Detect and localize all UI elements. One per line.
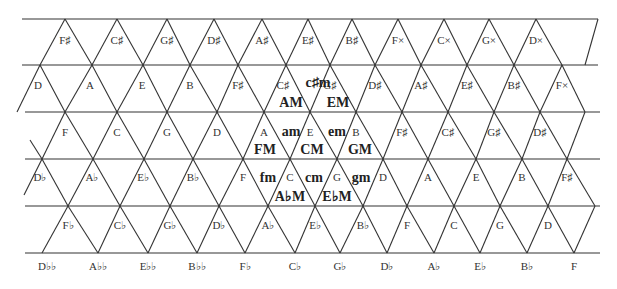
chord-label: GM (348, 142, 372, 157)
note-label: C♯ (442, 126, 455, 138)
note-label: F (404, 219, 410, 231)
note-label: G× (482, 34, 496, 46)
note-label: A (86, 79, 94, 91)
chord-label: CM (300, 142, 323, 157)
lattice-grid: F♯C♯G♯D♯A♯E♯B♯F×C×G×D×DAEBF♯C♯G♯D♯A♯E♯B♯… (0, 0, 617, 289)
note-label: E♭ (474, 260, 486, 272)
note-label: G (163, 126, 171, 138)
note-label: C♯ (111, 34, 124, 46)
note-label: B♯ (346, 34, 359, 46)
note-label: F (240, 171, 246, 183)
note-label: G (333, 171, 341, 183)
diagonal-line (567, 112, 585, 159)
note-label: C♭ (289, 260, 301, 272)
note-label: E♭♭ (140, 260, 157, 272)
note-label: F♯ (396, 126, 408, 138)
note-label: C× (437, 34, 451, 46)
note-label: B (518, 171, 525, 183)
note-label: E♭ (137, 171, 149, 183)
note-label: F× (556, 79, 568, 91)
note-label: B (352, 126, 359, 138)
note-label: D♭ (34, 171, 47, 183)
note-label: G (496, 219, 504, 231)
note-label: G♭ (334, 260, 347, 272)
note-label: D♯ (207, 34, 221, 46)
note-label: F♭ (62, 219, 73, 231)
note-label: D♭ (213, 219, 226, 231)
note-label: B (186, 79, 193, 91)
note-label: C♯ (277, 79, 290, 91)
note-label: F (571, 260, 577, 272)
note-label: F♯ (59, 34, 71, 46)
note-label: F♭ (239, 260, 250, 272)
diagonal-line (500, 206, 527, 253)
note-label: C (450, 219, 457, 231)
note-label: F♯ (232, 79, 244, 91)
note-label: A♭ (428, 260, 441, 272)
diagonal-line (574, 206, 595, 253)
note-label: F× (392, 34, 404, 46)
note-label: G♯ (487, 126, 501, 138)
chord-label: gm (352, 170, 371, 185)
diagonal-line (40, 65, 65, 112)
note-label: A♭♭ (89, 260, 107, 272)
note-label: D× (529, 34, 543, 46)
note-label: E♭ (309, 219, 321, 231)
chord-label: A♭M (275, 189, 305, 204)
diagonal-line (30, 140, 42, 159)
note-label: D (379, 171, 387, 183)
chord-label: cm (305, 170, 323, 185)
note-label: A (260, 126, 268, 138)
chord-label: fm (260, 170, 277, 185)
note-label: E (139, 79, 146, 91)
diagonal-line (476, 159, 500, 206)
diagonal-line (407, 206, 434, 253)
note-label: D♯ (368, 79, 382, 91)
note-label: D (34, 79, 42, 91)
diagonal-line (92, 65, 117, 112)
note-label: D♭♭ (38, 260, 56, 272)
chord-label: E♭M (322, 189, 352, 204)
diagonal-line (143, 65, 167, 112)
chord-label: am (282, 124, 301, 139)
note-label: B♭ (521, 260, 533, 272)
note-label: C (113, 126, 120, 138)
note-label: B♭ (187, 171, 199, 183)
note-label: A (424, 171, 432, 183)
note-label: D (544, 219, 552, 231)
chord-label: c♯m (306, 75, 331, 90)
chord-label: AM (279, 95, 302, 110)
note-label: F (62, 126, 68, 138)
note-label: A♯ (414, 79, 428, 91)
note-label: E (473, 171, 480, 183)
note-label: A♯ (255, 34, 269, 46)
diagonal-line (454, 206, 480, 253)
note-label: D♭ (381, 260, 394, 272)
note-label: E♯ (302, 34, 315, 46)
note-label: B♯ (508, 79, 521, 91)
chord-label: EM (327, 95, 350, 110)
diagonal-line (65, 112, 93, 159)
note-label: C♭ (114, 219, 126, 231)
note-label: G♯ (160, 34, 174, 46)
note-label: B♭ (357, 219, 369, 231)
note-label: E (307, 126, 314, 138)
note-label: A♭ (86, 171, 99, 183)
chord-label: FM (254, 142, 276, 157)
note-label: G♭ (164, 219, 177, 231)
note-label: D (213, 126, 221, 138)
diagonal-line (585, 19, 598, 65)
note-label: D♯ (533, 126, 547, 138)
diagonal-line (117, 112, 144, 159)
note-label: B♭♭ (188, 260, 205, 272)
diagonal-line (522, 159, 548, 206)
tonnetz-diagram: F♯C♯G♯D♯A♯E♯B♯F×C×G×D×DAEBF♯C♯G♯D♯A♯E♯B♯… (0, 0, 617, 289)
note-label: E♯ (461, 79, 474, 91)
chord-label: em (328, 124, 346, 139)
note-label: A♭ (262, 219, 275, 231)
diagonal-line (190, 65, 217, 112)
note-label: C (286, 171, 293, 183)
note-label: F♯ (561, 171, 573, 183)
